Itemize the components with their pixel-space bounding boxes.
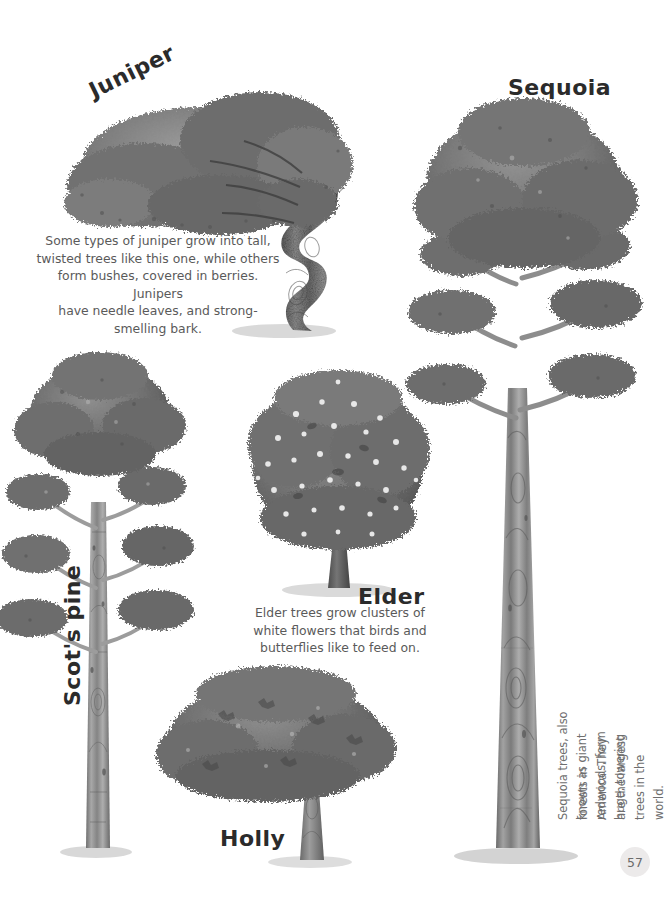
page-number: 57 [620,847,650,877]
sequoia-label: Sequoia [508,75,611,100]
scots-pine-illustration [0,352,182,862]
sequoia-caption-line2: forests in America. They are the largest… [574,726,668,820]
book-page: Juniper Some types of juniper grow into … [0,0,668,904]
elder-caption: Elder trees grow clusters of white flowe… [242,604,438,657]
juniper-caption: Some types of juniper grow into tall, tw… [36,232,280,337]
scots-pine-label: Scot's pine [60,565,85,706]
holly-label: Holly [220,826,285,851]
elder-illustration [238,368,448,598]
